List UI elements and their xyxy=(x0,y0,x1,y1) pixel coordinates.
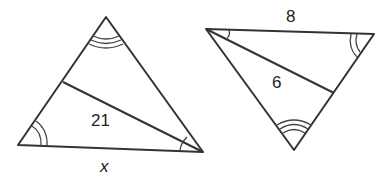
double-arc-mark xyxy=(32,126,41,146)
left-triangle-segment xyxy=(63,82,203,152)
left-triangle-outline xyxy=(18,17,203,152)
right-triangle-segment xyxy=(206,29,334,93)
segment-label-21: 21 xyxy=(91,111,110,130)
similar-triangles-diagram: 21 x 8 6 xyxy=(0,0,386,187)
double-arc-mark xyxy=(356,34,360,52)
left-triangle xyxy=(18,17,203,152)
right-triangle xyxy=(206,29,374,150)
triple-arc-mark xyxy=(93,36,119,39)
triple-arc-mark xyxy=(283,130,305,134)
segment-label-6: 6 xyxy=(272,73,281,92)
base-label-x: x xyxy=(99,157,109,176)
top-side-label-8: 8 xyxy=(286,7,295,26)
right-triangle-outline xyxy=(206,29,374,150)
